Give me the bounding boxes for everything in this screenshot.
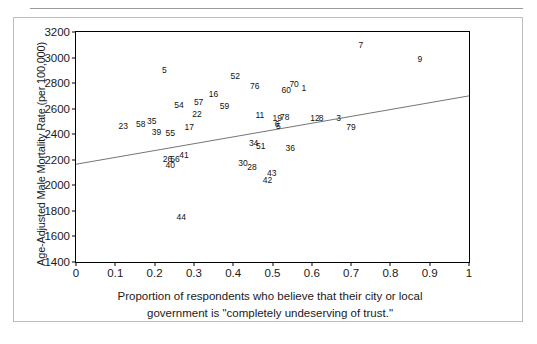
data-point-label: 36 bbox=[285, 144, 294, 153]
x-axis-caption-line-1: Proportion of respondents who believe th… bbox=[118, 290, 423, 302]
regression-trendline bbox=[76, 96, 469, 164]
data-point-label: 8 bbox=[319, 113, 324, 122]
x-axis-tick-mark bbox=[154, 262, 155, 266]
data-point-label: 17 bbox=[184, 123, 193, 132]
x-axis-tick-mark bbox=[351, 262, 352, 266]
data-point-label: 54 bbox=[174, 101, 183, 110]
y-axis-tick-label: 2600 bbox=[36, 103, 70, 115]
x-axis-tick-mark bbox=[193, 262, 194, 266]
x-axis-tick-mark bbox=[272, 262, 273, 266]
x-axis-tick-mark bbox=[311, 262, 312, 266]
x-axis-tick-mark bbox=[76, 262, 77, 266]
x-axis-tick-label: 0.1 bbox=[107, 267, 123, 279]
page-top-rule bbox=[30, 8, 523, 9]
data-point-label: 78 bbox=[280, 112, 289, 121]
y-axis-tick-label: 2400 bbox=[36, 128, 70, 140]
data-point-label: 28 bbox=[247, 162, 256, 171]
y-axis-tick-label: 3200 bbox=[36, 26, 70, 38]
y-axis-tick-label: 2800 bbox=[36, 77, 70, 89]
x-axis-tick-label: 0.9 bbox=[422, 267, 438, 279]
x-axis-tick-mark bbox=[115, 262, 116, 266]
data-point-label: 5 bbox=[276, 121, 281, 130]
data-point-label: 35 bbox=[147, 117, 156, 126]
y-axis-tick-label: 2200 bbox=[36, 154, 70, 166]
y-axis-tick-mark bbox=[72, 159, 76, 160]
data-point-label: 5 bbox=[162, 65, 167, 74]
data-point-label: 39 bbox=[152, 127, 161, 136]
data-point-label: 41 bbox=[179, 151, 188, 160]
x-axis-tick-mark bbox=[233, 262, 234, 266]
data-point-label: 16 bbox=[209, 89, 218, 98]
x-axis-tick-label: 1 bbox=[466, 267, 472, 279]
data-point-label: 23 bbox=[118, 122, 127, 131]
y-axis-tick-mark bbox=[72, 57, 76, 58]
data-point-label: 40 bbox=[166, 160, 175, 169]
y-axis-tick-label: 1800 bbox=[36, 205, 70, 217]
data-point-label: 76 bbox=[250, 82, 259, 91]
data-point-label: 1 bbox=[302, 83, 307, 92]
y-axis-tick-label: 1400 bbox=[36, 256, 70, 268]
data-point-label: 52 bbox=[230, 72, 239, 81]
data-point-label: 22 bbox=[192, 109, 201, 118]
x-axis-tick-label: 0 bbox=[73, 267, 79, 279]
x-axis-tick-label: 0.7 bbox=[343, 267, 359, 279]
x-axis-tick-mark bbox=[429, 262, 430, 266]
data-point-label: 60 bbox=[282, 85, 291, 94]
x-axis-tick-label: 0.3 bbox=[186, 267, 202, 279]
y-axis-tick-mark bbox=[72, 134, 76, 135]
data-point-label: 11 bbox=[256, 111, 265, 120]
data-point-label: 9 bbox=[418, 54, 423, 63]
trendline-svg bbox=[76, 32, 469, 262]
x-axis-tick-label: 0.4 bbox=[225, 267, 241, 279]
y-axis-tick-label: 2000 bbox=[36, 179, 70, 191]
x-axis-tick-label: 0.2 bbox=[147, 267, 163, 279]
scatter-plot-area: 5527976701601657545922111978128335582365… bbox=[75, 31, 470, 263]
x-axis-tick-label: 0.5 bbox=[265, 267, 281, 279]
data-point-label: 51 bbox=[256, 141, 265, 150]
x-axis-tick-label: 0.8 bbox=[382, 267, 398, 279]
y-axis-tick-mark bbox=[72, 236, 76, 237]
data-point-label: 44 bbox=[177, 212, 186, 221]
x-axis-caption: Proportion of respondents who believe th… bbox=[55, 288, 485, 322]
data-point-label: 7 bbox=[359, 40, 364, 49]
y-axis-tick-mark bbox=[72, 210, 76, 211]
y-axis-tick-mark bbox=[72, 83, 76, 84]
figure-container: 5527976701601657545922111978128335582365… bbox=[0, 0, 537, 344]
x-axis-tick-mark bbox=[390, 262, 391, 266]
y-axis-tick-mark bbox=[72, 32, 76, 33]
y-axis-tick-label: 3000 bbox=[36, 52, 70, 64]
data-point-label: 42 bbox=[263, 176, 272, 185]
x-axis-tick-mark bbox=[469, 262, 470, 266]
x-axis-caption-line-2: government is "completely undeserving of… bbox=[55, 305, 485, 322]
data-point-label: 3 bbox=[336, 113, 341, 122]
data-point-label: 55 bbox=[166, 129, 175, 138]
data-point-label: 59 bbox=[220, 102, 229, 111]
x-axis-tick-label: 0.6 bbox=[304, 267, 320, 279]
data-point-label: 79 bbox=[346, 122, 355, 131]
y-axis-tick-mark bbox=[72, 108, 76, 109]
data-point-label: 57 bbox=[194, 98, 203, 107]
y-axis-tick-label: 1600 bbox=[36, 230, 70, 242]
data-point-label: 30 bbox=[238, 158, 247, 167]
y-axis-tick-mark bbox=[72, 185, 76, 186]
plot-inner: 5527976701601657545922111978128335582365… bbox=[76, 32, 469, 262]
data-point-label: 58 bbox=[136, 120, 145, 129]
